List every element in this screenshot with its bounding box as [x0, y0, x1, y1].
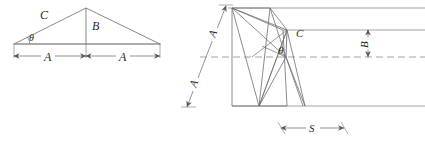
- elevation-label-theta: θ: [29, 32, 34, 43]
- figure-canvas: A A C B θ: [0, 0, 425, 150]
- elevation-label-a-left: A: [43, 50, 52, 64]
- perspective-label-s: S: [309, 122, 315, 134]
- perspective-label-b: B: [358, 41, 370, 48]
- figure-background: [0, 0, 425, 150]
- elevation-label-b: B: [92, 19, 100, 33]
- perspective-label-c: C: [296, 27, 304, 39]
- technical-figure: A A C B θ: [0, 0, 425, 150]
- elevation-label-c: C: [40, 8, 49, 22]
- perspective-label-theta: θ: [278, 44, 284, 56]
- elevation-label-a-right: A: [118, 50, 127, 64]
